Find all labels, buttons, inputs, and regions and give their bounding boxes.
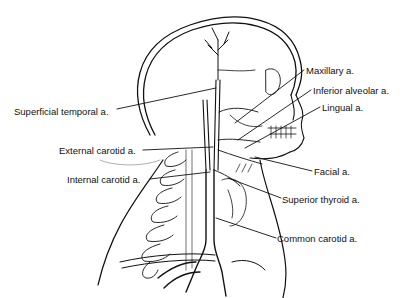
label-external-carotid-artery: External carotid a. — [59, 146, 136, 156]
label-maxillary-artery: Maxillary a. — [306, 66, 354, 76]
label-lingual-artery: Lingual a. — [322, 103, 363, 113]
label-common-carotid-artery: Common carotid a. — [277, 234, 357, 244]
anatomy-diagram: Superficial temporal a. Maxillary a. Inf… — [0, 0, 410, 298]
label-facial-artery: Facial a. — [314, 167, 350, 177]
cervical-vertebrae — [142, 150, 192, 278]
label-internal-carotid-artery: Internal carotid a. — [67, 175, 140, 185]
carotid-arteries — [158, 28, 262, 296]
label-inferior-alveolar-artery: Inferior alveolar a. — [313, 86, 389, 96]
label-superficial-temporal-artery: Superficial temporal a. — [14, 107, 109, 117]
label-superior-thyroid-artery: Superior thyroid a. — [282, 195, 360, 205]
larynx — [222, 179, 246, 226]
